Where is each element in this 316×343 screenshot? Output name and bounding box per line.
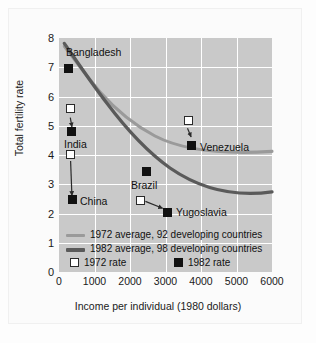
x-tick-0: 0 [44,276,74,287]
y-tick-6: 6 [32,92,54,103]
x-tick-5000: 5000 [222,276,252,287]
legend-row-1972-average: 1972 average, 92 developing countries [66,228,271,241]
legend-label-1972-average: 1972 average, 92 developing countries [90,228,262,241]
y-tick-8: 8 [32,33,54,44]
marker-1972-china [66,150,75,159]
y-tick-4: 4 [32,150,54,161]
point-label-india: India [64,139,87,150]
x-tick-6000: 6000 [257,276,287,287]
x-tick-1000: 1000 [80,276,110,287]
marker-1982-brazil [142,167,151,176]
y-tick-7: 7 [32,62,54,73]
marker-1972-india [66,104,75,113]
marker-1972-yugoslavia [136,196,145,205]
y-tick-3: 3 [32,179,54,190]
legend-row-rates: 1972 rate 1982 rate [66,256,271,270]
point-label-brazil: Brazil [131,180,157,191]
y-tick-1: 1 [32,238,54,249]
legend-swatch-1982-rate [174,258,183,267]
point-label-venezuela: Venezuela [200,142,249,153]
legend-swatch-1972-rate [70,258,79,267]
marker-1982-india [67,127,76,136]
y-tick-2: 2 [32,209,54,220]
y-axis-label: Total fertility rate [13,63,25,173]
x-tick-2000: 2000 [115,276,145,287]
x-axis-label: Income per individual (1980 dollars) [0,300,316,312]
marker-1982-bangladesh [64,64,73,73]
marker-1982-china [68,195,77,204]
point-label-bangladesh: Bangladesh [66,47,121,58]
chart-legend: 1972 average, 92 developing countries 19… [66,228,271,271]
legend-row-1982-average: 1982 average, 98 developing countries [66,242,271,255]
legend-line-1972 [66,234,85,237]
chart-figure: 1972 average, 92 developing countries 19… [0,0,316,343]
y-tick-5: 5 [32,121,54,132]
marker-1982-yugoslavia [163,208,172,217]
legend-label-1972-rate: 1972 rate [84,256,126,270]
marker-1982-venezuela [187,141,196,150]
legend-label-1982-rate: 1982 rate [188,256,230,270]
plot-area: 1972 average, 92 developing countries 19… [59,38,272,272]
legend-line-1982 [66,248,85,252]
x-tick-4000: 4000 [186,276,216,287]
point-label-china: China [80,196,107,207]
x-tick-3000: 3000 [151,276,181,287]
marker-1972-venezuela [184,116,193,125]
x-axis-ticks: 0 1000 2000 3000 4000 5000 6000 [0,276,316,292]
legend-label-1982-average: 1982 average, 98 developing countries [90,242,262,255]
point-label-yugoslavia: Yugoslavia [176,207,227,218]
